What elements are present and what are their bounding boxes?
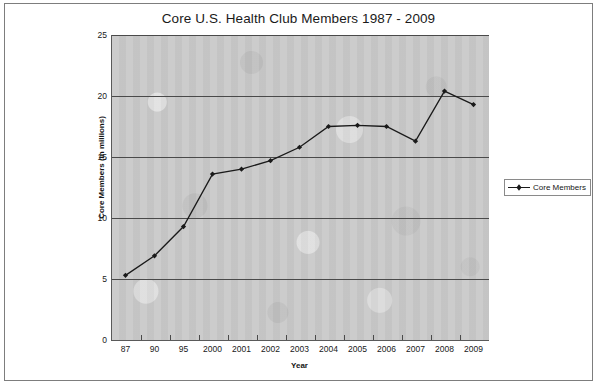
y-axis-tick-label: 5	[79, 274, 107, 284]
data-point-marker	[413, 139, 418, 144]
y-axis-tick-label: 20	[79, 91, 107, 101]
data-point-marker	[384, 124, 389, 129]
y-axis-tick-label: 15	[79, 152, 107, 162]
data-point-marker	[442, 89, 447, 94]
y-axis-tick-label: 10	[79, 213, 107, 223]
legend-label: Core Members	[533, 183, 586, 192]
data-point-marker	[471, 102, 476, 107]
data-series-core-members	[111, 35, 488, 340]
data-point-marker	[355, 123, 360, 128]
legend-marker-icon	[508, 183, 530, 192]
y-axis-tick-label: 25	[79, 30, 107, 40]
y-axis-tick-label: 0	[79, 335, 107, 345]
data-point-marker	[268, 158, 273, 163]
chart-title: Core U.S. Health Club Members 1987 - 200…	[5, 11, 592, 26]
data-point-marker	[239, 167, 244, 172]
data-point-marker	[210, 171, 215, 176]
x-axis-title: Year	[111, 361, 488, 370]
x-axis-tick-label: 2009	[454, 344, 494, 354]
y-axis-tick-labels: Core Members (in millions) 0510152025	[77, 35, 107, 340]
chart-legend: Core Members	[504, 179, 591, 196]
series-line	[126, 91, 474, 275]
chart-figure: Core U.S. Health Club Members 1987 - 200…	[4, 3, 593, 381]
